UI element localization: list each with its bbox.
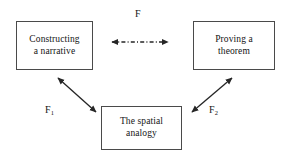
node-proving-label: Proving a theorem — [215, 34, 253, 58]
edge-label-f1-subscript: 1 — [51, 109, 55, 116]
node-the-spatial-analogy: The spatial analogy — [101, 106, 182, 150]
edge-label-f-text: F — [135, 8, 141, 19]
connector-f1 — [58, 78, 96, 112]
node-analogy-label: The spatial analogy — [120, 116, 163, 140]
node-constructing-label: Constructing a narrative — [29, 34, 79, 58]
node-proving-a-theorem: Proving a theorem — [193, 21, 275, 70]
edge-label-f2-subscript: 2 — [215, 109, 219, 116]
edge-label-f2: F2 — [209, 105, 218, 115]
edge-label-f2-text: F — [209, 104, 215, 115]
node-constructing-a-narrative: Constructing a narrative — [16, 21, 93, 70]
edge-label-f: F — [135, 9, 141, 19]
edge-label-f1: F1 — [45, 105, 54, 115]
diagram-canvas: Constructing a narrative Proving a theor… — [0, 0, 291, 165]
edge-label-f1-text: F — [45, 104, 51, 115]
